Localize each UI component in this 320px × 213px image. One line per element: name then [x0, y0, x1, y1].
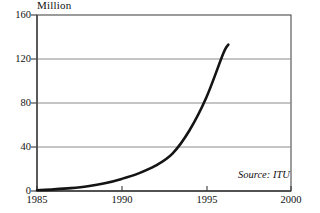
- y-axis-label-120: 120: [1, 53, 31, 64]
- source-annotation: Source: ITU: [238, 169, 290, 181]
- y-axis-label-80: 80: [1, 97, 31, 108]
- y-axis-label-160: 160: [1, 9, 31, 20]
- x-axis-label-1985: 1985: [15, 194, 59, 206]
- plot-area: [0, 0, 320, 213]
- x-axis-label-1995: 1995: [185, 194, 229, 206]
- x-axis-label-2000: 2000: [269, 194, 313, 206]
- y-axis-label-40: 40: [1, 141, 31, 152]
- x-axis-label-1990: 1990: [100, 194, 144, 206]
- chart-container: Million 160 120 80 40 0 1985 1990 1995 2…: [0, 0, 320, 213]
